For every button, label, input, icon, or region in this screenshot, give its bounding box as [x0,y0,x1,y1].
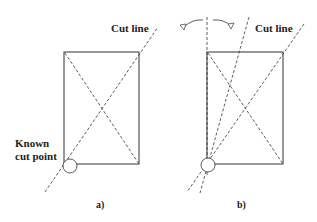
rotate-left-arrowhead-icon [180,24,186,30]
panel-a [45,27,158,192]
known-point-label-line1: Known [15,137,49,150]
known-cut-point-a [63,159,77,173]
cut-line-label-b: Cut line [255,22,293,35]
known-point-label-line2: cut point [15,150,57,163]
caption-b: b) [237,199,246,210]
caption-a: a) [96,199,104,210]
rotate-left-arrow-icon [184,20,203,27]
rotate-right-arrowhead-icon [228,23,234,29]
cut-line-label-a: Cut line [111,22,149,35]
known-cut-point-b [201,158,215,172]
panel-b [180,17,304,193]
